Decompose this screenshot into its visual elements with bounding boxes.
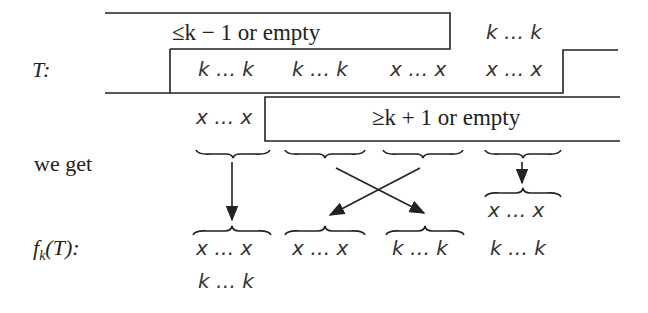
result-cell-3: k … k — [392, 238, 448, 258]
result-cell-1: x … x — [196, 238, 252, 258]
result-extra-above-4: x … x — [488, 200, 544, 220]
T-cell-4: x … x — [486, 59, 542, 79]
T-left-step — [105, 49, 170, 93]
arrow-3-to-2 — [330, 168, 420, 215]
brace-bot-3 — [386, 226, 464, 235]
brace-top-1 — [196, 150, 270, 158]
T-above-right: k … k — [486, 22, 542, 42]
T-cell-1: k … k — [198, 59, 254, 79]
brace-bot-1 — [193, 226, 271, 235]
result-below-1: k … k — [198, 271, 254, 291]
brace-top-2 — [285, 150, 365, 158]
result-cell-2: x … x — [292, 238, 348, 258]
diagram-lines — [0, 0, 648, 313]
T-cell-3: x … x — [390, 59, 446, 79]
label-fkT: fk(T): — [33, 237, 80, 263]
lower-box-label: ≥k + 1 or empty — [372, 106, 520, 129]
label-T: T: — [32, 59, 50, 81]
T-below-left: x … x — [196, 107, 252, 127]
upper-box-label: ≤k − 1 or empty — [172, 21, 320, 44]
result-cell-4: k … k — [490, 238, 546, 258]
brace-top-4 — [485, 150, 561, 158]
T-cell-2: k … k — [292, 59, 348, 79]
fkT-rest: (T): — [45, 235, 79, 260]
label-we-get: we get — [34, 153, 92, 175]
brace-mid-4 — [485, 188, 561, 197]
brace-top-3 — [383, 150, 463, 158]
brace-bot-2 — [285, 226, 365, 235]
arrow-2-to-3 — [336, 168, 424, 213]
